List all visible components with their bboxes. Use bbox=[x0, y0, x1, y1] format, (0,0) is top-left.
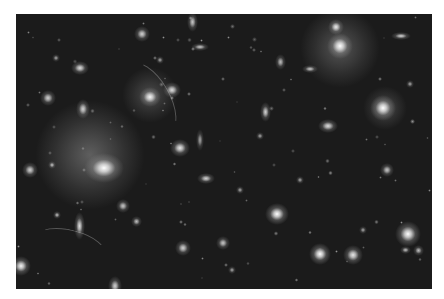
faint-galaxy bbox=[374, 220, 379, 225]
faint-galaxy bbox=[73, 59, 77, 63]
faint-galaxy bbox=[252, 48, 256, 52]
faint-galaxy bbox=[291, 149, 295, 153]
faint-galaxy bbox=[219, 140, 221, 142]
galaxy bbox=[359, 226, 368, 235]
faint-galaxy bbox=[151, 135, 156, 140]
galaxy bbox=[216, 236, 229, 249]
galaxy bbox=[391, 32, 411, 41]
faint-galaxy bbox=[260, 50, 263, 53]
galaxy bbox=[131, 216, 142, 227]
faint-galaxy bbox=[252, 37, 257, 42]
faint-galaxy bbox=[414, 16, 417, 19]
faint-galaxy bbox=[365, 138, 368, 141]
galaxy bbox=[40, 90, 55, 105]
faint-galaxy bbox=[187, 38, 191, 42]
faint-galaxy bbox=[245, 199, 248, 202]
faint-galaxy bbox=[52, 125, 56, 129]
galaxy bbox=[170, 139, 190, 157]
galaxy bbox=[108, 276, 121, 289]
galaxy bbox=[22, 162, 37, 177]
galaxy bbox=[236, 186, 245, 195]
galaxy bbox=[116, 199, 129, 212]
faint-galaxy bbox=[32, 36, 35, 39]
galaxy bbox=[296, 176, 305, 185]
faint-galaxy bbox=[188, 201, 190, 203]
galaxy bbox=[228, 266, 237, 275]
galaxy bbox=[197, 173, 215, 184]
faint-galaxy bbox=[308, 231, 311, 234]
galaxy bbox=[76, 99, 89, 119]
faint-galaxy bbox=[272, 163, 276, 167]
faint-galaxy bbox=[142, 22, 145, 25]
faint-galaxy bbox=[230, 24, 235, 29]
galaxy bbox=[52, 54, 61, 63]
faint-galaxy bbox=[37, 272, 40, 275]
faint-galaxy bbox=[120, 125, 123, 128]
faint-galaxy bbox=[335, 250, 338, 253]
faint-galaxy bbox=[48, 151, 52, 155]
galaxy bbox=[380, 163, 393, 176]
faint-galaxy bbox=[57, 38, 61, 42]
faint-galaxy bbox=[47, 282, 50, 285]
faint-galaxy bbox=[118, 48, 120, 50]
faint-galaxy bbox=[187, 92, 191, 96]
faint-galaxy bbox=[176, 38, 180, 42]
faint-galaxy bbox=[224, 263, 228, 267]
faint-galaxy bbox=[384, 143, 387, 146]
faint-galaxy bbox=[90, 109, 94, 113]
faint-galaxy bbox=[375, 135, 378, 138]
faint-galaxy bbox=[394, 179, 397, 182]
faint-galaxy bbox=[173, 162, 176, 165]
faint-galaxy bbox=[290, 78, 293, 81]
galaxy bbox=[318, 119, 338, 132]
galaxy bbox=[196, 129, 205, 151]
galaxy bbox=[256, 132, 265, 141]
faint-galaxy bbox=[27, 31, 30, 34]
faint-galaxy bbox=[282, 88, 286, 92]
galaxy bbox=[413, 245, 424, 256]
galaxy bbox=[400, 246, 411, 255]
faint-galaxy bbox=[26, 103, 30, 107]
faint-galaxy bbox=[145, 183, 147, 185]
faint-galaxy bbox=[201, 257, 205, 261]
galaxy bbox=[406, 80, 415, 89]
faint-galaxy bbox=[17, 245, 20, 248]
galaxy bbox=[265, 203, 289, 225]
faint-galaxy bbox=[114, 218, 117, 221]
galaxy bbox=[302, 65, 317, 74]
lensing-arc bbox=[32, 221, 110, 271]
faint-galaxy bbox=[379, 176, 382, 179]
faint-galaxy bbox=[227, 36, 230, 39]
faint-galaxy bbox=[236, 101, 239, 104]
galaxy-cluster-photo bbox=[16, 14, 432, 289]
faint-galaxy bbox=[153, 56, 157, 60]
galaxy bbox=[275, 54, 286, 69]
faint-galaxy bbox=[426, 137, 429, 140]
faint-galaxy bbox=[81, 147, 84, 150]
faint-galaxy bbox=[323, 107, 326, 110]
faint-galaxy bbox=[246, 262, 249, 265]
faint-galaxy bbox=[80, 208, 82, 210]
faint-galaxy bbox=[189, 16, 192, 19]
faint-galaxy bbox=[221, 77, 225, 81]
galaxy bbox=[74, 212, 85, 241]
faint-galaxy bbox=[162, 36, 165, 39]
galaxy bbox=[175, 240, 190, 255]
faint-galaxy bbox=[317, 176, 319, 178]
galaxy bbox=[16, 256, 31, 276]
faint-galaxy bbox=[183, 223, 187, 227]
faint-galaxy bbox=[428, 189, 432, 193]
faint-galaxy bbox=[269, 106, 274, 111]
faint-galaxy bbox=[383, 37, 385, 39]
galaxy bbox=[260, 102, 271, 122]
galaxy bbox=[328, 19, 343, 34]
faint-galaxy bbox=[109, 138, 111, 140]
faint-galaxy bbox=[201, 277, 203, 279]
faint-galaxy bbox=[200, 39, 204, 43]
faint-galaxy bbox=[295, 278, 298, 281]
faint-galaxy bbox=[191, 47, 195, 51]
faint-galaxy bbox=[328, 171, 333, 176]
galaxy bbox=[309, 243, 331, 265]
galaxy bbox=[139, 87, 161, 107]
faint-galaxy bbox=[233, 171, 236, 174]
